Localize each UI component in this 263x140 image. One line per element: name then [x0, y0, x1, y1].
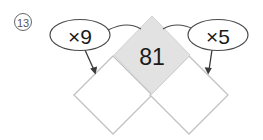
left-arrow-icon — [85, 50, 97, 75]
worksheet-problem: 13 81 — [0, 0, 263, 140]
right-operation-label: ×5 — [206, 25, 230, 48]
problem-number-badge: 13 — [15, 14, 32, 31]
problem-number-text: 13 — [17, 17, 29, 29]
left-connector-line — [108, 25, 141, 30]
left-operation-bubble[interactable]: ×9 — [50, 20, 110, 51]
right-arrow-icon — [205, 50, 212, 75]
right-arrow-shaft — [209, 50, 212, 70]
right-operation-bubble[interactable]: ×5 — [188, 20, 248, 51]
center-cell-value: 81 — [139, 44, 165, 70]
left-arrow-shaft — [85, 50, 94, 70]
left-operation-label: ×9 — [68, 25, 92, 48]
problem-diagram: 13 81 — [0, 0, 263, 140]
